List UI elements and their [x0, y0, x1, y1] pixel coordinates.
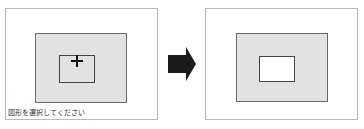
before-panel: 図形を選択してください — [5, 8, 158, 120]
gray-canvas — [35, 33, 127, 103]
after-panel — [205, 8, 358, 120]
rectangle-shape-selected[interactable] — [259, 56, 295, 82]
instruction-caption: 図形を選択してください — [8, 107, 85, 117]
arrow-right-icon — [168, 47, 196, 81]
crosshair-icon — [71, 55, 83, 67]
gray-canvas — [236, 33, 328, 102]
